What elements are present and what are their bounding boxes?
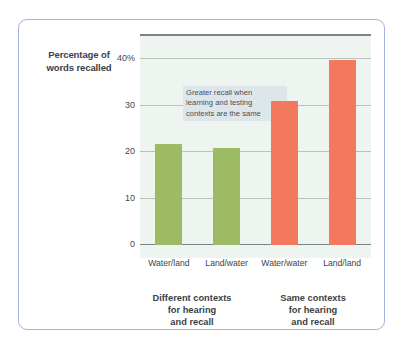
x-category-label-land-land: Land/land [312, 258, 372, 268]
bar-land-water [213, 148, 240, 245]
x-category-label-water-water: Water/water [254, 258, 314, 268]
figure-card: Percentage of words recalled 010203040%G… [18, 19, 385, 330]
group-caption-0-line-2: for hearing [136, 304, 248, 316]
y-tick-label-20: 20 [125, 146, 135, 156]
group-caption-1-line-3: and recall [257, 316, 369, 328]
bar-land-land [329, 60, 356, 245]
group-caption-0-line-3: and recall [136, 316, 248, 328]
y-tick-label-30: 30 [125, 100, 135, 110]
group-caption-same-contexts: Same contexts for hearing and recall [257, 292, 369, 329]
chart-annotation-line-2: learning and testing [186, 98, 284, 108]
bar-water-water [271, 101, 298, 245]
bar-water-land [155, 144, 182, 245]
x-category-label-land-water: Land/water [197, 258, 257, 268]
group-caption-different-contexts: Different contexts for hearing and recal… [136, 292, 248, 329]
y-tick-label-10: 10 [125, 193, 135, 203]
x-axis-category-labels: Water/landLand/waterWater/waterLand/land [140, 258, 371, 272]
group-caption-1-line-2: for hearing [257, 304, 369, 316]
y-tick-label-0: 0 [130, 239, 135, 249]
chart-annotation-line-3: contexts are the same [186, 109, 284, 119]
chart-annotation-line-1: Greater recall when [186, 88, 284, 98]
y-axis-title: Percentage of words recalled [33, 49, 125, 74]
plot-area: 010203040%Greater recall whenlearning an… [140, 34, 371, 258]
group-caption-1-line-1: Same contexts [257, 292, 369, 304]
y-axis-title-line-1: Percentage of [33, 49, 125, 62]
plot-inner: 010203040%Greater recall whenlearning an… [140, 36, 371, 258]
group-captions: Different contexts for hearing and recal… [140, 292, 385, 336]
y-axis-title-line-2: words recalled [33, 62, 125, 75]
x-category-label-water-land: Water/land [139, 258, 199, 268]
y-tick-label-40: 40% [117, 53, 135, 63]
group-caption-0-line-1: Different contexts [136, 292, 248, 304]
